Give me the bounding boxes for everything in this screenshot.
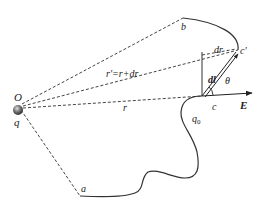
label-a: a <box>81 183 86 194</box>
line-O-to-a <box>21 110 80 196</box>
label-r: r <box>123 102 127 113</box>
path-curve-upper <box>183 18 238 50</box>
diagram-canvas: O q b a c c′ r′=r+dr r dr dl θ E q0 <box>0 0 259 209</box>
e-field-arrow <box>202 93 252 96</box>
label-e-field: E <box>239 99 247 111</box>
label-c: c <box>212 101 217 112</box>
label-origin: O <box>14 91 22 103</box>
label-theta: θ <box>225 75 230 86</box>
label-c-prime: c′ <box>240 45 247 56</box>
dashed-lines <box>21 18 238 196</box>
label-dr: dr <box>214 44 223 55</box>
charge-q-icon <box>13 105 23 115</box>
path-curve <box>80 96 202 197</box>
label-dl: dl <box>208 74 216 85</box>
label-b: b <box>181 21 186 32</box>
line-r <box>23 96 202 108</box>
line-O-to-b <box>22 18 183 104</box>
label-r-prime: r′=r+dr <box>106 68 138 79</box>
label-test-charge: q0 <box>192 113 201 126</box>
label-source-charge: q <box>14 116 20 128</box>
